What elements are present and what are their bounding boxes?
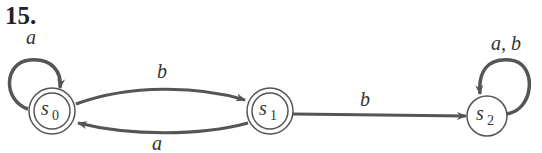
state-diagram: a b a b a, b s 0 s 1 s 2	[0, 0, 542, 153]
state-s0: s 0	[29, 88, 75, 134]
state-s2: s 2	[467, 96, 507, 136]
state-s1-sub: 1	[270, 108, 277, 123]
label-a-s1-s0: a	[152, 132, 162, 153]
transition-s0-s1: b	[76, 60, 245, 104]
state-s1: s 1	[247, 88, 293, 134]
state-s2-sub: 2	[487, 113, 494, 128]
transition-s1-s0: a	[78, 123, 248, 153]
state-s2-name: s	[476, 102, 484, 124]
label-b-s1-s2: b	[360, 88, 370, 110]
state-s0-sub: 0	[52, 108, 59, 123]
state-s0-name: s	[41, 97, 49, 119]
label-b-s0-s1: b	[157, 60, 167, 82]
transition-s1-s2: b	[293, 88, 466, 116]
state-s1-name: s	[259, 97, 267, 119]
label-ab-loop: a, b	[491, 32, 521, 54]
label-a-loop: a	[26, 26, 36, 48]
